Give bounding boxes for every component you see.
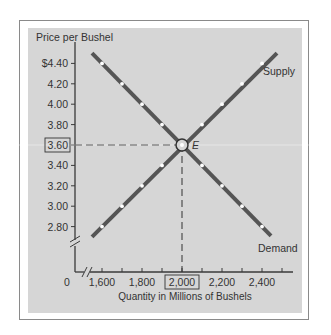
supply-marker bbox=[120, 204, 124, 208]
y-tick-label: 4.00 bbox=[48, 98, 69, 110]
y-tick-label: 2.80 bbox=[48, 221, 69, 233]
x-tick-label: 2,400 bbox=[249, 276, 275, 288]
demand-marker bbox=[160, 123, 164, 127]
x-tick-label: 2,200 bbox=[209, 276, 235, 288]
x-origin-label: 0 bbox=[64, 276, 70, 288]
supply-marker bbox=[200, 123, 204, 127]
x-axis-label: Quantity in Millions of Bushels bbox=[118, 291, 251, 302]
supply-marker bbox=[100, 225, 104, 229]
supply-marker bbox=[220, 102, 224, 106]
y-tick-label: 3.00 bbox=[48, 200, 69, 212]
y-tick-label: $4.40 bbox=[42, 57, 68, 69]
demand-marker bbox=[100, 62, 104, 66]
demand-marker bbox=[120, 82, 124, 86]
x-tick-label: 1,800 bbox=[129, 276, 155, 288]
demand-marker bbox=[240, 204, 244, 208]
equilibrium-label: E bbox=[192, 139, 200, 151]
economics-chart: Price per Bushel $4.404.204.003.803.603.… bbox=[0, 0, 331, 335]
x-tick-label: 2,000 bbox=[169, 276, 195, 288]
labels-group: $4.404.204.003.803.603.403.203.002.801,6… bbox=[42, 57, 298, 289]
demand-label: Demand bbox=[258, 242, 298, 254]
supply-marker bbox=[160, 164, 164, 168]
y-tick-label: 4.20 bbox=[48, 78, 69, 90]
demand-marker bbox=[220, 184, 224, 188]
x-tick-label: 1,600 bbox=[89, 276, 115, 288]
supply-label: Supply bbox=[263, 65, 296, 77]
supply-marker bbox=[140, 184, 144, 188]
y-tick-label: 3.60 bbox=[48, 139, 69, 151]
demand-marker bbox=[140, 102, 144, 106]
supply-marker bbox=[240, 82, 244, 86]
equilibrium-point-center bbox=[180, 143, 184, 147]
demand-marker bbox=[260, 225, 264, 229]
y-tick-label: 3.40 bbox=[48, 159, 69, 171]
demand-marker bbox=[200, 164, 204, 168]
y-tick-label: 3.20 bbox=[48, 180, 69, 192]
y-tick-label: 3.80 bbox=[48, 119, 69, 131]
y-axis-label: Price per Bushel bbox=[36, 31, 113, 43]
